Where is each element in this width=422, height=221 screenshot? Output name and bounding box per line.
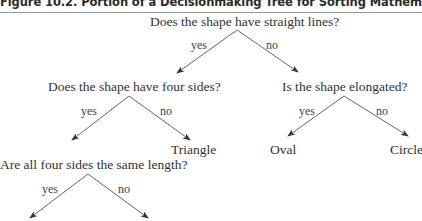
tree-edges	[0, 0, 422, 221]
leaf-oval: Oval	[270, 142, 296, 158]
same-length-yes-label: yes	[42, 182, 58, 197]
root-no-label: no	[266, 38, 278, 53]
elongated-yes-label: yes	[299, 104, 315, 119]
four-sides-no-label: no	[160, 104, 172, 119]
node-four-sides-question: Does the shape have four sides?	[48, 79, 221, 95]
root-yes-label: yes	[191, 38, 207, 53]
leaf-circle: Circle	[390, 142, 422, 158]
same-length-no-label: no	[118, 182, 130, 197]
node-same-length-question: Are all four sides the same length?	[0, 157, 187, 173]
same-length-yes-arrow	[30, 174, 88, 218]
four-sides-yes-label: yes	[81, 104, 97, 119]
node-elongated-question: Is the shape elongated?	[282, 79, 408, 95]
node-root-question: Does the shape have straight lines?	[150, 14, 339, 30]
leaf-triangle: Triangle	[171, 142, 216, 158]
root-yes-arrow	[177, 30, 237, 73]
elongated-no-label: no	[376, 104, 388, 119]
elongated-yes-arrow	[288, 96, 344, 136]
